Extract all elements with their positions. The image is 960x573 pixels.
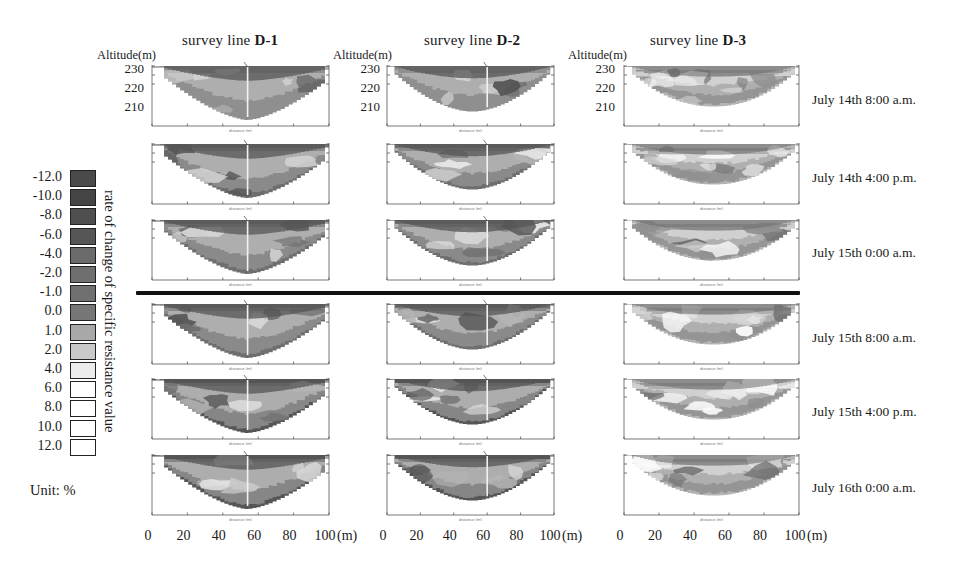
x-tick-label: 60 — [476, 528, 490, 544]
legend-value: 8.0 — [45, 399, 63, 415]
legend-value: -2.0 — [40, 265, 62, 281]
legend-swatch — [70, 324, 96, 341]
column-title-d3: survey line D-3 — [650, 32, 746, 49]
x-tick-label: 60 — [718, 528, 732, 544]
x-tick-label: 80 — [283, 528, 297, 544]
panel-D-2-row4: No.5distance (m) — [383, 300, 560, 370]
x-tick-label: 0 — [380, 528, 387, 544]
legend-value: -12.0 — [33, 169, 62, 185]
legend-swatch — [70, 170, 96, 187]
x-axis-unit: (m) — [807, 528, 827, 544]
panel-D-2-row1: No.5distance (m) — [383, 62, 560, 132]
panel-D-3-row3: distance (m) — [620, 216, 805, 286]
legend-swatch — [70, 362, 96, 379]
x-tick-label: 60 — [247, 528, 261, 544]
panel-distance-caption: distance (m) — [229, 206, 253, 210]
x-tick-label: 40 — [212, 528, 226, 544]
x-tick-label: 80 — [753, 528, 767, 544]
legend-value: -8.0 — [40, 207, 62, 223]
panel-D-1-row6: No.4distance (m) — [148, 451, 335, 521]
altitude-tick: 220 — [125, 81, 145, 94]
altitude-tick: 230 — [361, 62, 381, 75]
panel-distance-caption: distance (m) — [459, 206, 483, 210]
legend-value: -4.0 — [40, 246, 62, 262]
altitude-tick: 230 — [125, 62, 145, 75]
legend-swatch — [70, 343, 96, 360]
row-date-label-4: July 15th 8:00 a.m. — [812, 330, 916, 346]
panel-distance-caption: distance (m) — [459, 282, 483, 286]
x-tick-label: 100 — [315, 528, 336, 544]
legend-value: -10.0 — [33, 188, 62, 204]
column-title-name: D-3 — [722, 32, 746, 48]
altitude-tick: 210 — [125, 100, 145, 113]
legend-swatch — [70, 247, 96, 264]
panel-distance-caption: distance (m) — [700, 282, 724, 286]
legend-value: 6.0 — [45, 380, 63, 396]
panel-D-1-row2: No.4distance (m) — [148, 140, 335, 210]
altitude-tick: 220 — [596, 81, 616, 94]
panel-D-2-row5: No.5distance (m) — [383, 375, 560, 445]
altitude-tick: 210 — [361, 100, 381, 113]
legend-swatch — [70, 266, 96, 283]
panel-distance-caption: distance (m) — [700, 441, 724, 445]
panel-D-2-row6: No.5distance (m) — [383, 451, 560, 521]
legend-title: rate of change of specific resistance va… — [101, 190, 118, 432]
legend-unit: Unit: % — [30, 482, 76, 499]
column-title-name: D-1 — [254, 32, 278, 48]
panel-D-1-row5: No.4distance (m) — [148, 375, 335, 445]
column-title-name: D-2 — [496, 32, 520, 48]
legend-value: 10.0 — [38, 419, 63, 435]
legend: -12.0-10.0-8.0-6.0-4.0-2.0-1.00.01.02.04… — [0, 170, 135, 500]
panel-distance-caption: distance (m) — [459, 128, 483, 132]
panel-D-3-row1: distance (m) — [620, 62, 805, 132]
panel-distance-caption: distance (m) — [700, 366, 724, 370]
panel-distance-caption: distance (m) — [229, 517, 253, 521]
row-date-label-1: July 14th 8:00 a.m. — [812, 92, 916, 108]
x-tick-label: 100 — [540, 528, 561, 544]
legend-value: -6.0 — [40, 227, 62, 243]
legend-value: 4.0 — [45, 361, 63, 377]
x-tick-label: 20 — [409, 528, 423, 544]
legend-swatch — [70, 400, 96, 417]
x-tick-label: 0 — [617, 528, 624, 544]
legend-value: -1.0 — [40, 284, 62, 300]
legend-swatch — [70, 285, 96, 302]
panel-D-3-row4: distance (m) — [620, 300, 805, 370]
panel-anomaly-blob — [161, 147, 179, 167]
section-divider — [136, 291, 800, 295]
altitude-tick: 210 — [596, 100, 616, 113]
panel-distance-caption: distance (m) — [459, 366, 483, 370]
x-axis-unit: (m) — [337, 528, 357, 544]
legend-value: 0.0 — [45, 303, 63, 319]
row-date-label-3: July 15th 0:00 a.m. — [812, 245, 916, 261]
x-tick-label: 100 — [785, 528, 806, 544]
legend-swatch — [70, 381, 96, 398]
column-title-prefix: survey line — [424, 32, 496, 48]
panel-distance-caption: distance (m) — [459, 441, 483, 445]
row-date-label-5: July 15th 4:00 p.m. — [812, 404, 917, 420]
x-tick-label: 20 — [648, 528, 662, 544]
panel-distance-caption: distance (m) — [229, 441, 253, 445]
altitude-tick: 220 — [361, 81, 381, 94]
panel-distance-caption: distance (m) — [459, 517, 483, 521]
figure-root: survey line D-1 survey line D-2 survey l… — [0, 0, 960, 573]
panel-D-3-row2: distance (m) — [620, 140, 805, 210]
row-date-label-6: July 16th 0:00 a.m. — [812, 480, 916, 496]
panel-D-1-row4: No.4distance (m) — [148, 300, 335, 370]
legend-swatch — [70, 304, 96, 321]
panel-distance-caption: distance (m) — [700, 206, 724, 210]
legend-swatch — [70, 208, 96, 225]
legend-value: 1.0 — [45, 323, 63, 339]
panel-distance-caption: distance (m) — [229, 128, 253, 132]
column-title-prefix: survey line — [650, 32, 722, 48]
column-title-prefix: survey line — [182, 32, 254, 48]
panel-distance-caption: distance (m) — [700, 128, 724, 132]
altitude-ticks-d1: 230 220 210 — [110, 62, 144, 122]
x-tick-label: 40 — [683, 528, 697, 544]
panel-D-1-row3: No.4distance (m) — [148, 216, 335, 286]
panel-D-1-row1: No.4distance (m) — [148, 62, 335, 132]
x-tick-label: 20 — [176, 528, 190, 544]
altitude-tick: 230 — [596, 62, 616, 75]
legend-swatch — [70, 439, 96, 456]
x-tick-label: 0 — [145, 528, 152, 544]
